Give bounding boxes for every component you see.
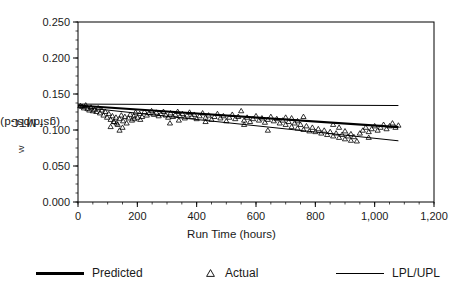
thin-line-icon (336, 273, 384, 274)
x-tick-label: 800 (306, 210, 324, 222)
data-point-triangle (277, 121, 282, 125)
data-point-triangle (357, 131, 362, 135)
data-point-triangle (336, 135, 341, 139)
data-point-triangle (360, 128, 365, 132)
legend-label-predicted: Predicted (92, 266, 143, 280)
triangle-icon (203, 269, 217, 277)
data-point-triangle (304, 123, 309, 127)
data-point-triangle (239, 108, 244, 112)
data-point-triangle (366, 129, 371, 133)
data-point-triangle (108, 124, 113, 128)
data-point-triangle (310, 125, 315, 129)
plot-area: 0.0000.0500.1000.1500.2000.2500200400600… (0, 0, 463, 250)
x-axis-title: Run Time (hours) (0, 228, 463, 240)
line-series-upl (78, 104, 398, 105)
x-tick-label: 600 (247, 210, 265, 222)
thick-line-icon (36, 272, 84, 275)
plot-frame (78, 22, 434, 202)
x-tick-label: 0 (75, 210, 81, 222)
y-tick-label: 0.200 (42, 52, 70, 64)
legend-item-predicted: Predicted (36, 266, 143, 280)
chart-figure: MTCW (gsfd/psi-d) 0.0000.0500.1000.1500.… (0, 0, 463, 297)
data-point-triangle (176, 118, 181, 122)
x-tick-label: 400 (187, 210, 205, 222)
data-point-triangle (322, 128, 327, 132)
data-point-triangle (342, 136, 347, 140)
data-point-triangle (336, 125, 341, 129)
data-point-triangle (375, 128, 380, 132)
data-point-triangle (342, 129, 347, 133)
y-tick-label: 0.100 (42, 124, 70, 136)
legend-item-lpl-upl: LPL/UPL (336, 266, 440, 280)
y-tick-label: 0.050 (42, 160, 70, 172)
data-point-triangle (390, 121, 395, 125)
data-point-triangle (316, 126, 321, 130)
legend-label-lpl-upl: LPL/UPL (392, 266, 440, 280)
data-point-triangle (117, 128, 122, 132)
legend-label-actual: Actual (225, 266, 258, 280)
legend-item-actual: Actual (203, 266, 258, 280)
x-tick-label: 200 (128, 210, 146, 222)
data-point-triangle (283, 122, 288, 126)
y-tick-label: 0.250 (42, 16, 70, 28)
x-tick-label: 1,200 (420, 210, 448, 222)
x-tick-label: 1,000 (361, 210, 389, 222)
data-point-triangle (369, 126, 374, 130)
data-point-triangle (120, 125, 125, 129)
data-point-triangle (301, 114, 306, 118)
chart-legend: Predicted Actual LPL/UPL (0, 262, 463, 290)
y-tick-label: 0.150 (42, 88, 70, 100)
chart-svg: 0.0000.0500.1000.1500.2000.2500200400600… (0, 0, 463, 250)
y-tick-label: 0.000 (42, 196, 70, 208)
data-point-triangle (167, 121, 172, 125)
data-point-triangle (247, 119, 252, 123)
data-point-triangle (354, 139, 359, 143)
data-point-triangle (262, 120, 267, 124)
data-point-triangle (265, 128, 270, 132)
